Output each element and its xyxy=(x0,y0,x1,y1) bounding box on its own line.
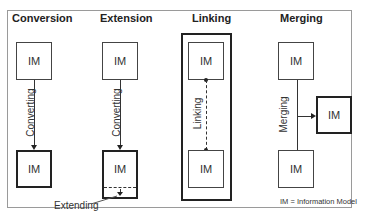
label-extending: Extending xyxy=(54,200,98,211)
im-label: IM xyxy=(290,163,302,175)
linking-edge xyxy=(206,80,207,150)
panel-title-merging: Merging xyxy=(280,12,323,24)
panel-title-linking: Linking xyxy=(192,12,231,24)
im-label: IM xyxy=(328,109,340,121)
im-label: IM xyxy=(200,163,212,175)
im-box-merging-top: IM xyxy=(278,42,314,80)
im-label: IM xyxy=(290,55,302,67)
im-box-merging-result: IM xyxy=(316,96,352,134)
im-box-linking-top: IM xyxy=(188,42,224,80)
edge-label-linking: Linking xyxy=(192,89,203,139)
im-box-linking-bottom: IM xyxy=(188,150,224,188)
im-label: IM xyxy=(200,55,212,67)
legend-text: IM = Information Model xyxy=(280,197,357,206)
merging-edge xyxy=(297,80,298,150)
im-box-merging-bottom: IM xyxy=(278,150,314,188)
edge-label-merging: Merging xyxy=(278,90,289,140)
merging-branch xyxy=(297,116,311,117)
